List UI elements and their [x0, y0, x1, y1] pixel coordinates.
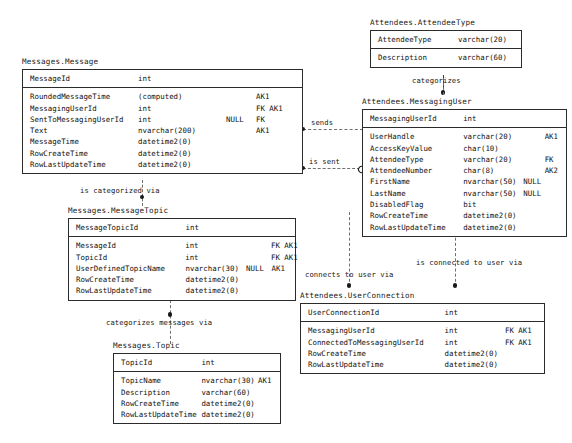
- column-name: Description: [371, 52, 458, 63]
- column-key: AK1: [256, 125, 302, 136]
- entity-box-messagetopic: MessageTopicId int MessageId int FK AK1 …: [68, 218, 296, 301]
- column-name: MessageTopicId: [69, 222, 186, 233]
- column-name: RoundedMessageTime: [23, 91, 138, 102]
- column-type: datetime2(0): [463, 222, 523, 233]
- table-row: RowCreateTime datetime2(0): [114, 398, 280, 409]
- column-type: (computed): [138, 91, 226, 102]
- column-type: datetime2(0): [138, 136, 226, 147]
- relationship-label-connects-to-user-via: connects to user via: [305, 270, 394, 279]
- column-type: datetime2(0): [445, 348, 505, 359]
- column-type: char(10): [463, 143, 523, 154]
- column-key: AK2: [545, 165, 566, 176]
- relationship-label-is-categorized-via: is categorized via: [80, 186, 160, 195]
- pk-block-messagetopic: MessageTopicId int: [69, 219, 295, 237]
- attr-block-topic: TopicName nvarchar(30) AK1 Description v…: [114, 372, 280, 423]
- table-row: MessagingUserId int FK AK1: [301, 325, 544, 336]
- column-name: UserConnectionId: [301, 307, 445, 318]
- column-name: TopicId: [69, 252, 185, 263]
- entity-attendees-userconnection[interactable]: Attendees.UserConnection UserConnectionI…: [300, 291, 545, 374]
- column-nullability: NULL: [523, 188, 544, 199]
- column-key: FK AK1: [271, 252, 295, 263]
- table-row: MessageTime datetime2(0): [23, 136, 302, 147]
- column-name: TopicId: [114, 357, 201, 368]
- column-type: varchar(20): [463, 154, 523, 165]
- table-row: UserConnectionId int: [301, 307, 544, 318]
- connector-dot-iscategorizedvia: [140, 195, 145, 200]
- column-name: Description: [114, 387, 201, 398]
- column-type: varchar(20): [463, 131, 523, 142]
- column-nullability: NULL: [523, 176, 544, 187]
- column-type: datetime2(0): [186, 274, 247, 285]
- column-name: MessagingUserId: [301, 325, 445, 336]
- column-name: LastName: [363, 188, 463, 199]
- attr-block-userconnection: MessagingUserId int FK AK1 ConnectedToMe…: [301, 322, 544, 373]
- column-name: TopicName: [114, 375, 201, 386]
- column-name: RowCreateTime: [69, 274, 186, 285]
- entity-messages-topic[interactable]: Messages.Topic TopicId int TopicName nva…: [113, 341, 281, 424]
- entity-attendees-messaginguser[interactable]: Attendees.MessagingUser MessagingUserId …: [362, 97, 567, 237]
- column-name: AttendeeNumber: [363, 165, 463, 176]
- relationship-label-categorizes: categorizes: [412, 76, 461, 85]
- column-type: int: [186, 222, 247, 233]
- column-type: datetime2(0): [138, 148, 226, 159]
- column-type: varchar(20): [458, 34, 520, 45]
- column-type: int: [185, 240, 245, 251]
- connector-dot-isconnectedtouser: [453, 283, 458, 288]
- entity-title-message: Messages.Message: [22, 57, 303, 67]
- column-name: RowLastUpdateTime: [23, 159, 138, 170]
- entity-title-messaginguser: Attendees.MessagingUser: [362, 97, 567, 107]
- table-row: Description varchar(60): [371, 52, 521, 63]
- table-row: LastName nvarchar(50) NULL: [363, 188, 566, 199]
- entity-attendees-attendeetype[interactable]: Attendees.AttendeeType AttendeeType varc…: [370, 18, 522, 68]
- table-row: TopicName nvarchar(30) AK1: [114, 375, 280, 386]
- pk-block-message: MessageId int: [23, 70, 302, 88]
- connector-dot-connectstouser: [347, 283, 352, 288]
- column-key: AK1: [258, 375, 280, 386]
- column-type: int: [138, 103, 226, 114]
- relationship-label-categorizes-messages-via: categorizes messages via: [106, 318, 212, 327]
- table-row: RoundedMessageTime (computed) AK1: [23, 91, 302, 102]
- relationship-label-is-connected-to-user-via: is connected to user via: [416, 258, 522, 267]
- entity-box-userconnection: UserConnectionId int MessagingUserId int…: [300, 303, 545, 374]
- column-type: int: [138, 114, 226, 125]
- column-key: FK: [545, 154, 566, 165]
- column-key: FK AK1: [256, 103, 302, 114]
- column-name: RowLastUpdateTime: [363, 222, 463, 233]
- table-row: DisabledFlag bit: [363, 199, 566, 210]
- column-type: nvarchar(50): [463, 188, 523, 199]
- column-type: datetime2(0): [201, 398, 258, 409]
- table-row: AttendeeType varchar(20) FK: [363, 154, 566, 165]
- table-row: RowCreateTime datetime2(0): [301, 348, 544, 359]
- column-name: Text: [23, 125, 138, 136]
- entity-messages-message[interactable]: Messages.Message MessageId int RoundedMe…: [22, 57, 303, 174]
- column-name: MessageId: [69, 240, 185, 251]
- table-row: TopicId int FK AK1: [69, 252, 295, 263]
- column-name: RowCreateTime: [301, 348, 445, 359]
- entity-title-messagetopic: Messages.MessageTopic: [68, 206, 296, 216]
- pk-block-messaginguser: MessagingUserId int: [363, 110, 566, 128]
- entity-title-attendeetype: Attendees.AttendeeType: [370, 18, 522, 28]
- relationship-label-is-sent: is sent: [309, 157, 340, 166]
- column-type: int: [445, 337, 505, 348]
- column-nullability: NULL: [226, 114, 256, 125]
- column-type: varchar(60): [201, 387, 258, 398]
- column-name: UserDefinedTopicName: [69, 263, 186, 274]
- pk-block-userconnection: UserConnectionId int: [301, 304, 544, 322]
- column-name: ConnectedToMessagingUserId: [301, 337, 445, 348]
- column-type: int: [463, 113, 523, 124]
- table-row: RowCreateTime datetime2(0): [69, 274, 295, 285]
- table-row: SentToMessagingUserId int NULL FK: [23, 114, 302, 125]
- column-type: int: [138, 73, 226, 84]
- column-name: RowLastUpdateTime: [301, 359, 445, 370]
- table-row: RowLastUpdateTime datetime2(0): [69, 285, 295, 296]
- column-name: RowCreateTime: [114, 398, 201, 409]
- column-type: nvarchar(30): [201, 375, 258, 386]
- column-type: datetime2(0): [201, 409, 258, 420]
- column-type: datetime2(0): [186, 285, 247, 296]
- table-row: TopicId int: [114, 357, 280, 368]
- column-name: AttendeeType: [363, 154, 463, 165]
- table-row: AttendeeType varchar(20): [371, 34, 521, 45]
- entity-messages-messagetopic[interactable]: Messages.MessageTopic MessageTopicId int…: [68, 206, 296, 301]
- table-row: UserHandle varchar(20) AK1: [363, 131, 566, 142]
- column-type: int: [185, 252, 245, 263]
